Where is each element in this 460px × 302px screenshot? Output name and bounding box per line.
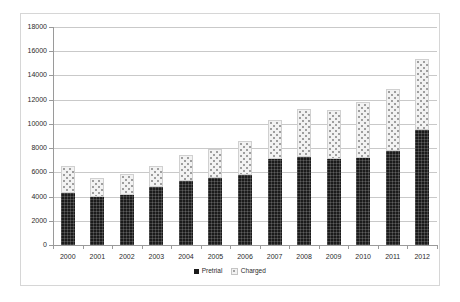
bar-segment-pretrial[interactable] bbox=[386, 151, 400, 245]
bar-segment-pretrial[interactable] bbox=[179, 181, 193, 245]
bar-group[interactable] bbox=[90, 27, 104, 245]
x-axis-tick-label: 2004 bbox=[171, 252, 201, 261]
y-axis-labels: 0200040006000800010000120001400016000180… bbox=[0, 0, 47, 302]
bar-group[interactable] bbox=[356, 27, 370, 245]
bar-segment-pretrial[interactable] bbox=[120, 195, 134, 245]
legend-swatch-pretrial-icon bbox=[194, 269, 199, 274]
x-axis-tick-label: 2002 bbox=[112, 252, 142, 261]
y-axis-tick bbox=[49, 51, 53, 52]
bar-segment-charged[interactable] bbox=[386, 89, 400, 151]
y-axis-tick-label: 8000 bbox=[31, 144, 47, 152]
chart-legend: PretrialCharged bbox=[0, 267, 460, 275]
y-axis-tick bbox=[49, 197, 53, 198]
x-axis-tick bbox=[142, 245, 143, 249]
x-axis-tick bbox=[230, 245, 231, 249]
y-axis-tick bbox=[49, 221, 53, 222]
bar-segment-charged[interactable] bbox=[268, 120, 282, 159]
y-axis-line bbox=[53, 27, 54, 245]
x-axis-tick-label: 2007 bbox=[260, 252, 290, 261]
x-axis-tick-label: 2006 bbox=[230, 252, 260, 261]
y-axis-tick-label: 6000 bbox=[31, 168, 47, 176]
x-axis-tick bbox=[201, 245, 202, 249]
x-axis-tick-label: 2005 bbox=[200, 252, 230, 261]
chart-container: 0200040006000800010000120001400016000180… bbox=[0, 0, 460, 302]
x-axis-tick bbox=[348, 245, 349, 249]
legend-swatch-charged-icon bbox=[231, 268, 238, 275]
x-axis-tick bbox=[83, 245, 84, 249]
y-axis-tick bbox=[49, 172, 53, 173]
x-axis-tick bbox=[437, 245, 438, 249]
y-axis-tick-label: 0 bbox=[43, 241, 47, 249]
bar-group[interactable] bbox=[149, 27, 163, 245]
bar-segment-charged[interactable] bbox=[120, 174, 134, 196]
bar-segment-pretrial[interactable] bbox=[238, 175, 252, 245]
bar-segment-pretrial[interactable] bbox=[327, 159, 341, 245]
bar-segment-charged[interactable] bbox=[149, 166, 163, 187]
legend-item[interactable]: Pretrial bbox=[194, 267, 222, 275]
y-axis-tick-label: 12000 bbox=[28, 96, 47, 104]
bar-group[interactable] bbox=[238, 27, 252, 245]
bar-segment-charged[interactable] bbox=[415, 59, 429, 130]
x-axis-tick bbox=[260, 245, 261, 249]
bar-group[interactable] bbox=[120, 27, 134, 245]
bar-segment-charged[interactable] bbox=[179, 155, 193, 181]
bar-group[interactable] bbox=[179, 27, 193, 245]
x-axis-line bbox=[53, 245, 437, 246]
bar-group[interactable] bbox=[61, 27, 75, 245]
bar-segment-charged[interactable] bbox=[297, 109, 311, 156]
legend-item[interactable]: Charged bbox=[231, 267, 265, 275]
bar-segment-pretrial[interactable] bbox=[149, 187, 163, 245]
x-axis-tick-label: 2001 bbox=[82, 252, 112, 261]
y-axis-tick-label: 10000 bbox=[28, 120, 47, 128]
x-axis-tick bbox=[289, 245, 290, 249]
y-axis-tick bbox=[49, 100, 53, 101]
bar-segment-charged[interactable] bbox=[238, 141, 252, 176]
bar-group[interactable] bbox=[327, 27, 341, 245]
bar-segment-pretrial[interactable] bbox=[415, 130, 429, 245]
x-axis-tick bbox=[319, 245, 320, 249]
y-axis-tick bbox=[49, 124, 53, 125]
bar-group[interactable] bbox=[208, 27, 222, 245]
legend-label: Charged bbox=[241, 267, 266, 275]
x-axis-tick bbox=[171, 245, 172, 249]
bar-segment-pretrial[interactable] bbox=[356, 158, 370, 245]
x-axis-tick-label: 2011 bbox=[378, 252, 408, 261]
plot-area bbox=[53, 27, 437, 245]
bar-segment-pretrial[interactable] bbox=[61, 193, 75, 245]
x-axis-tick bbox=[53, 245, 54, 249]
bar-segment-charged[interactable] bbox=[356, 102, 370, 158]
legend-label: Pretrial bbox=[202, 267, 223, 275]
y-axis-tick-label: 14000 bbox=[28, 71, 47, 79]
bar-group[interactable] bbox=[415, 27, 429, 245]
y-axis-tick-label: 2000 bbox=[31, 217, 47, 225]
x-axis-tick bbox=[407, 245, 408, 249]
bar-segment-charged[interactable] bbox=[327, 110, 341, 159]
y-axis-tick bbox=[49, 27, 53, 28]
y-axis-tick-label: 16000 bbox=[28, 47, 47, 55]
y-axis-tick bbox=[49, 75, 53, 76]
y-axis-tick bbox=[49, 148, 53, 149]
bar-segment-pretrial[interactable] bbox=[297, 157, 311, 245]
bar-segment-charged[interactable] bbox=[61, 166, 75, 193]
x-axis-tick-label: 2010 bbox=[348, 252, 378, 261]
x-axis-tick-label: 2000 bbox=[53, 252, 83, 261]
bar-segment-pretrial[interactable] bbox=[208, 178, 222, 245]
x-axis-tick-label: 2009 bbox=[319, 252, 349, 261]
bar-segment-pretrial[interactable] bbox=[90, 197, 104, 245]
bar-segment-charged[interactable] bbox=[208, 149, 222, 178]
x-axis-tick-label: 2003 bbox=[141, 252, 171, 261]
bar-segment-pretrial[interactable] bbox=[268, 159, 282, 245]
x-axis-tick bbox=[378, 245, 379, 249]
x-axis-tick-label: 2008 bbox=[289, 252, 319, 261]
bar-segment-charged[interactable] bbox=[90, 178, 104, 197]
y-axis-tick-label: 4000 bbox=[31, 193, 47, 201]
x-axis-tick bbox=[112, 245, 113, 249]
bar-group[interactable] bbox=[386, 27, 400, 245]
bar-group[interactable] bbox=[297, 27, 311, 245]
x-axis-tick-label: 2012 bbox=[407, 252, 437, 261]
y-axis-tick-label: 18000 bbox=[28, 23, 47, 31]
bar-group[interactable] bbox=[268, 27, 282, 245]
